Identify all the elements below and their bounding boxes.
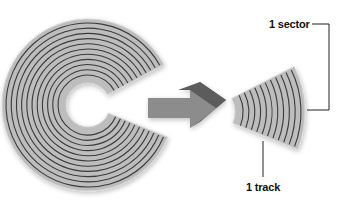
sector-label: 1 sector	[269, 18, 310, 30]
disk-platter	[2, 19, 168, 191]
sector-piece	[232, 67, 305, 150]
diagram-canvas	[0, 0, 343, 212]
arrow-icon	[148, 82, 226, 128]
disk-diagram: 1 sector 1 track	[0, 0, 343, 212]
track-label: 1 track	[246, 181, 280, 193]
